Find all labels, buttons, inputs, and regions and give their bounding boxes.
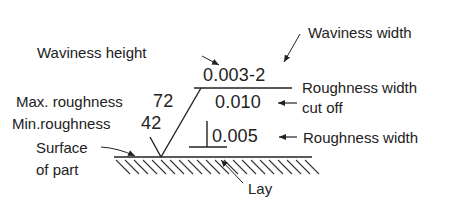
hatch-stroke xyxy=(278,160,292,174)
waviness-width-label: Waviness width xyxy=(308,25,412,40)
min-roughness-value: 42 xyxy=(141,114,161,132)
max-roughness-label: Max. roughness xyxy=(16,94,123,109)
hatch-stroke xyxy=(287,160,301,174)
hatch-stroke xyxy=(305,160,319,174)
hatch-stroke xyxy=(134,160,148,174)
waviness-height-arrow xyxy=(202,56,219,65)
hatch-stroke xyxy=(242,160,256,174)
hatch-stroke xyxy=(179,160,193,174)
lay-label: Lay xyxy=(248,181,272,196)
surface-hatching xyxy=(116,160,319,174)
min-roughness-label: Min.roughness xyxy=(12,116,110,131)
hatch-stroke xyxy=(269,160,283,174)
hatch-stroke xyxy=(170,160,184,174)
surface-label-line2: of part xyxy=(36,162,79,177)
hatch-stroke xyxy=(188,160,202,174)
hatch-stroke xyxy=(215,160,229,174)
hatch-stroke xyxy=(152,160,166,174)
hatch-stroke xyxy=(296,160,310,174)
max-roughness-value: 72 xyxy=(153,92,173,110)
symbol-short-leg xyxy=(150,137,161,157)
hatch-stroke xyxy=(116,160,130,174)
surface-roughness-diagram: 0.003-2 0.010 0.005 72 42 Waviness heigh… xyxy=(0,0,457,210)
hatch-stroke xyxy=(206,160,220,174)
waviness-height-label: Waviness height xyxy=(37,45,147,60)
roughness-width-cutoff-label-line2: cut off xyxy=(302,100,343,115)
hatch-stroke xyxy=(125,160,139,174)
roughness-width-label: Roughness width xyxy=(303,130,418,145)
cutoff-value: 0.010 xyxy=(215,93,261,111)
hatch-stroke xyxy=(224,160,238,174)
surface-label-line1: Surface xyxy=(36,140,88,155)
hatch-stroke xyxy=(251,160,265,174)
hatch-stroke xyxy=(233,160,247,174)
hatch-stroke xyxy=(161,160,175,174)
surface-arrow xyxy=(101,147,135,156)
roughness-width-value: 0.005 xyxy=(212,127,258,145)
hatch-stroke xyxy=(197,160,211,174)
lay-arrow xyxy=(221,160,243,183)
hatch-stroke xyxy=(143,160,157,174)
waviness-width-arrow xyxy=(284,34,300,62)
roughness-width-cutoff-label-line1: Roughness width xyxy=(302,80,417,95)
hatch-stroke xyxy=(260,160,274,174)
waviness-value: 0.003-2 xyxy=(203,66,265,84)
